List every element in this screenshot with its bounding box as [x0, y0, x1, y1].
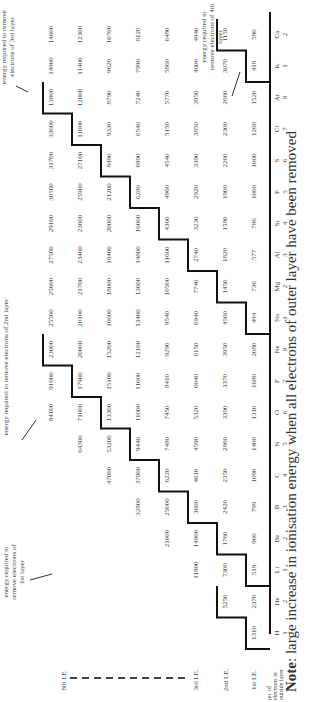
ie-cell: 1090 [250, 461, 258, 491]
footnote: Note: large increase in ionisation energ… [283, 131, 300, 692]
ie-cell: 1310 [250, 618, 258, 648]
ie-cell: 3850 [192, 114, 200, 144]
ie-cell: 4960 [163, 177, 171, 207]
ie-cell: 53200 [105, 429, 113, 459]
ie-cell: 29100 [47, 209, 55, 239]
ie-cell: 14900 [47, 51, 55, 81]
ie-cell: 2370 [250, 587, 258, 617]
ie-cell: 25600 [47, 272, 55, 302]
ie-cell: 47000 [105, 461, 113, 491]
ie-cell: 14800 [134, 240, 142, 270]
annotation-layer-4: energy required to remove electrons of 4… [200, 2, 224, 72]
ie-cell: 2660 [221, 83, 229, 113]
ie-cell: 15100 [105, 366, 113, 396]
ie-cell: 799 [250, 492, 258, 522]
ie-cell: 10500 [163, 272, 171, 302]
ie-cell: 16600 [105, 303, 113, 333]
ie-cell: 25900 [76, 177, 84, 207]
ie-cell: 786 [250, 209, 258, 239]
ie-cell: 23400 [76, 240, 84, 270]
ie-cell: 71000 [76, 398, 84, 428]
ie-cell: 6480 [163, 20, 171, 50]
ie-cell: 5150 [163, 114, 171, 144]
ie-cell: 13600 [134, 272, 142, 302]
ie-cell: 418 [250, 51, 258, 81]
ie-cell: 14600 [47, 20, 55, 50]
annotation-layer-2: energy required to remove electrons of 2… [2, 272, 10, 462]
ie-cell: 15200 [105, 335, 113, 365]
ie-cell: 1900 [221, 177, 229, 207]
ie-cell: 21700 [76, 272, 84, 302]
ie-cell: 2420 [221, 492, 229, 522]
ie-cell: 1060 [250, 177, 258, 207]
ie-cell: 1310 [250, 398, 258, 428]
ie-cell: 1760 [221, 524, 229, 554]
ie-cell: 9290 [163, 335, 171, 365]
ie-cell: 23600 [76, 209, 84, 239]
ie-cell: 4360 [163, 209, 171, 239]
ie-cell: 11000 [134, 366, 142, 396]
ie-cell: 4560 [221, 303, 229, 333]
ie-cell: 2080 [250, 335, 258, 365]
ie-cell: 7740 [192, 272, 200, 302]
ie-cell: 2920 [192, 177, 200, 207]
annotation-layer-3: energy required to remove electrons of 3… [0, 2, 16, 92]
ie-cell: 6220 [163, 461, 171, 491]
ie-cell: 3390 [221, 398, 229, 428]
ie-cell: 1400 [250, 429, 258, 459]
ie-cell: 5770 [163, 83, 171, 113]
ie-cell: 2860 [221, 429, 229, 459]
ie-cell: 7480 [163, 429, 171, 459]
ie-cell: 11400 [76, 51, 84, 81]
ie-cell: 8790 [105, 83, 113, 113]
ie-cell: 25500 [47, 303, 55, 333]
ie-cell: 11000 [134, 398, 142, 428]
ie-cell: 3950 [221, 335, 229, 365]
ie-cell: 1820 [221, 240, 229, 270]
ie-cell: 6540 [134, 114, 142, 144]
ionisation-energy-table: 8th I.E. 3rd I.E. 2nd I.E. 1st I.E. no. … [0, 0, 310, 702]
ie-cell: 3390 [192, 146, 200, 176]
ie-cell: 590 [250, 20, 258, 50]
ie-cell: 6280 [134, 177, 142, 207]
note-label: Note [283, 662, 299, 692]
ie-cell: 25000 [163, 492, 171, 522]
ie-cell: 12100 [134, 335, 142, 365]
ie-cell: 1520 [250, 83, 258, 113]
ie-cell: 11600 [163, 240, 171, 270]
ie-cell: 10700 [105, 20, 113, 50]
ie-cell: 1680 [250, 366, 258, 396]
ie-cell: 64300 [76, 429, 84, 459]
ie-cell: 2350 [221, 461, 229, 491]
ie-cell: 33600 [47, 114, 55, 144]
ie-cell: 20000 [76, 335, 84, 365]
ie-cell: 31700 [47, 146, 55, 176]
ie-cell: 1260 [250, 114, 258, 144]
ie-cell: 4540 [163, 146, 171, 176]
annotation-layer-1: energy required to remove electrons of 1… [2, 542, 26, 602]
ie-cell: 7240 [134, 83, 142, 113]
ie-cell: 18000 [105, 272, 113, 302]
ie-cell: 27500 [47, 240, 55, 270]
ie-cell: 494 [250, 303, 258, 333]
ie-cell: 8490 [105, 146, 113, 176]
ie-cell: 37800 [134, 461, 142, 491]
ie-cell: 3230 [192, 209, 200, 239]
row-label-2nd-ie: 2nd I.E. [222, 662, 230, 698]
ie-cell: 4600 [192, 51, 200, 81]
ie-cell: 9620 [105, 51, 113, 81]
ie-cell: 12000 [76, 83, 84, 113]
ie-cell: 2740 [192, 240, 200, 270]
ie-cell: 23000 [47, 335, 55, 365]
ie-cell: 5860 [163, 51, 171, 81]
ie-cell: 21200 [105, 177, 113, 207]
note-text: : large increase in ionisation energy wh… [283, 131, 299, 662]
ie-cell: 6990 [134, 146, 142, 176]
ie-cell: 12300 [76, 20, 84, 50]
ie-cell: 11800 [192, 555, 200, 585]
ie-cell: 1000 [250, 146, 258, 176]
ie-cell: 6940 [192, 303, 200, 333]
ie-cell: 18400 [105, 240, 113, 270]
row-label-1st-ie: 1st I.E. [250, 662, 258, 698]
ie-cell: 91600 [47, 366, 55, 396]
